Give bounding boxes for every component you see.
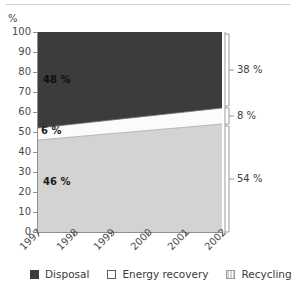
y-tick-label-20: 20: [5, 187, 31, 197]
bracket-disposal: [225, 34, 234, 106]
data-label-disposal-start: 48 %: [43, 75, 70, 85]
legend-swatch-energy-recovery-icon: [107, 270, 116, 279]
plot-area-wrapper: 0 10 20 30 40 50 60 70 80 90 100 1997 19…: [0, 0, 296, 289]
y-tick-mark: [33, 152, 37, 153]
legend-label-disposal: Disposal: [45, 268, 89, 280]
y-axis-line: [37, 32, 38, 233]
y-tick-label-100: 100: [5, 27, 31, 37]
y-tick-mark: [33, 192, 37, 193]
legend-item-recycling[interactable]: Recycling: [226, 268, 291, 280]
stacked-area-plot: [38, 32, 222, 232]
y-tick-label-70: 70: [5, 87, 31, 97]
y-tick-label-50: 50: [5, 127, 31, 137]
bracket-label-energy-recovery: 8 %: [237, 111, 256, 121]
legend-item-disposal[interactable]: Disposal: [30, 268, 89, 280]
y-tick-label-30: 30: [5, 167, 31, 177]
y-tick-mark: [33, 212, 37, 213]
y-tick-label-80: 80: [5, 67, 31, 77]
y-tick-label-10: 10: [5, 207, 31, 217]
data-label-energy-start: 6 %: [41, 126, 61, 136]
bracket-label-disposal: 38 %: [237, 65, 262, 75]
y-tick-label-90: 90: [5, 47, 31, 57]
chart-legend: Disposal Energy recovery Recycling: [30, 268, 296, 280]
legend-label-recycling: Recycling: [241, 268, 291, 280]
y-tick-mark: [33, 52, 37, 53]
y-tick-mark: [33, 132, 37, 133]
y-tick-label-60: 60: [5, 107, 31, 117]
y-tick-mark: [33, 72, 37, 73]
chart-root: % 0: [0, 0, 296, 289]
y-tick-label-40: 40: [5, 147, 31, 157]
area-series-svg: [38, 32, 222, 232]
legend-item-energy-recovery[interactable]: Energy recovery: [107, 268, 208, 280]
y-tick-mark: [33, 92, 37, 93]
y-tick-mark: [33, 112, 37, 113]
legend-swatch-recycling-icon: [226, 270, 235, 279]
bracket-label-recycling: 54 %: [237, 174, 262, 184]
bracket-energy-recovery: [225, 108, 234, 124]
y-tick-mark: [33, 32, 37, 33]
right-bracket-group: [224, 30, 238, 236]
y-tick-mark: [33, 172, 37, 173]
legend-swatch-disposal-icon: [30, 270, 39, 279]
data-label-recycling-start: 46 %: [43, 177, 70, 187]
legend-label-energy-recovery: Energy recovery: [122, 268, 208, 280]
bracket-recycling: [225, 126, 234, 232]
